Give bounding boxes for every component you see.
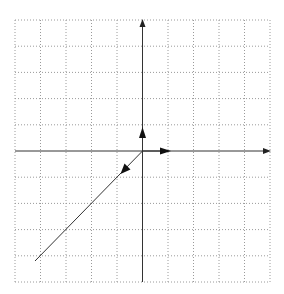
diagonal-line bbox=[35, 151, 143, 261]
vector-x-arrowhead-icon bbox=[160, 148, 171, 155]
vector-y-arrowhead-icon bbox=[139, 127, 146, 138]
unit-vector-y bbox=[139, 127, 146, 138]
unit-vector-x bbox=[143, 148, 172, 155]
vector-diagram bbox=[0, 0, 284, 294]
x-axis-arrow-icon bbox=[263, 148, 271, 154]
